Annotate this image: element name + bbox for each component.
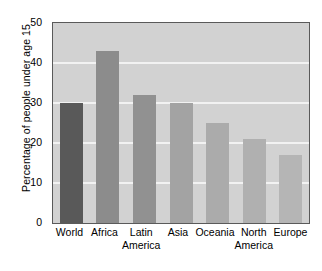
y-tick-label: 20 (2, 136, 42, 148)
y-tick-label: 0 (2, 216, 42, 228)
bar (170, 103, 193, 223)
bar-chart-figure: Percentage of people under age 15 010203… (0, 0, 322, 271)
x-tick-label-line1: Latin (122, 226, 161, 239)
x-tick-label-line1: Africa (87, 226, 122, 239)
x-tick-label-line2: America (122, 239, 161, 252)
x-tick-label-line1: Oceania (195, 226, 234, 239)
bar-cell (272, 23, 309, 223)
plot-area (52, 22, 310, 224)
x-tick-label: Oceania (195, 226, 234, 270)
bar (206, 123, 229, 223)
x-tick-label-line1: North (235, 226, 274, 239)
bar-cell (236, 23, 273, 223)
bar (60, 103, 83, 223)
y-tick-label: 30 (2, 96, 42, 108)
y-axis-tick-labels: 01020304050 (0, 0, 48, 271)
bar (243, 139, 266, 223)
bar-cell (126, 23, 163, 223)
x-tick-label-line1: World (52, 226, 87, 239)
bar-cell (199, 23, 236, 223)
x-tick-label: NorthAmerica (235, 226, 274, 270)
x-tick-label-line1: Asia (160, 226, 195, 239)
bar-cell (53, 23, 90, 223)
bar-cell (163, 23, 200, 223)
y-tick-label: 50 (2, 16, 42, 28)
x-tick-label: Asia (160, 226, 195, 270)
bar (133, 95, 156, 223)
y-tick-label: 40 (2, 56, 42, 68)
x-tick-label-line2: America (235, 239, 274, 252)
plot-inner (53, 23, 309, 223)
x-tick-label-line1: Europe (273, 226, 308, 239)
bar-series (53, 23, 309, 223)
bar (279, 155, 302, 223)
x-tick-label: World (52, 226, 87, 270)
y-tick-label: 10 (2, 176, 42, 188)
x-axis-tick-labels: WorldAfricaLatinAmericaAsiaOceaniaNorthA… (52, 226, 308, 270)
x-tick-label: Europe (273, 226, 308, 270)
bar-cell (90, 23, 127, 223)
bar (96, 51, 119, 223)
x-tick-label: LatinAmerica (122, 226, 161, 270)
x-tick-label: Africa (87, 226, 122, 270)
